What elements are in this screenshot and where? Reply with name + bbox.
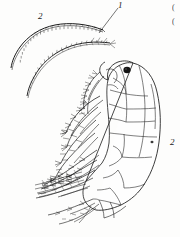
antenna-2-group [27,38,116,99]
figure-container: 1 2 2 ( ( [0,0,180,237]
eye-spot [123,67,130,73]
callout-label-1: 1 [118,1,123,10]
margin-text-fragment-second: ( [172,17,180,26]
callout-label-2-body: 2 [170,138,175,147]
amphipod-illustration [0,0,180,237]
body-outline-group [83,63,160,211]
callout-label-2-antenna: 2 [38,12,43,21]
segment-pore-dot [151,141,154,144]
uropod-group [48,199,99,224]
antenna-1-group [11,24,103,70]
callout-line-1 [99,8,118,33]
margin-text-fragment-top: ( [172,3,180,12]
